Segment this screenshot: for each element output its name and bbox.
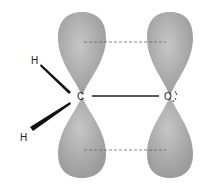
carbon-top-lobe [58, 12, 106, 96]
orbital-diagram: H H C O [0, 0, 207, 186]
atom-label-carbon: C [77, 91, 84, 102]
oxygen-bottom-lobe [147, 96, 193, 178]
ch-bond-top [40, 64, 71, 94]
atom-label-h-bottom: H [20, 132, 27, 143]
oxygen-top-lobe [147, 12, 193, 96]
atom-label-h-top: H [31, 55, 38, 66]
ch-bond-bottom [30, 102, 71, 131]
atom-label-oxygen: O [164, 91, 172, 102]
carbon-bottom-lobe [58, 96, 106, 178]
oxygen-lone-pairs-icon [173, 91, 178, 102]
